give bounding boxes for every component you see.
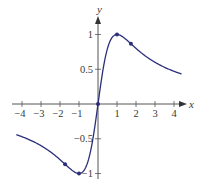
x-tick-label: −3 bbox=[33, 108, 44, 119]
x-tick-label: −1 bbox=[71, 108, 82, 119]
data-point bbox=[63, 162, 67, 166]
y-tick-label: 1 bbox=[88, 29, 93, 40]
y-axis-arrow-icon bbox=[95, 16, 101, 24]
y-tick-label: −1 bbox=[82, 168, 93, 179]
x-tick-label: 2 bbox=[133, 108, 138, 119]
x-tick-label: 4 bbox=[171, 108, 177, 119]
data-point bbox=[96, 102, 100, 106]
x-tick-label: −4 bbox=[14, 108, 26, 119]
x-axis-arrow-icon bbox=[179, 101, 187, 107]
y-axis-label: y bbox=[96, 3, 102, 15]
x-tick-label: 3 bbox=[152, 108, 157, 119]
y-tick-label: −0.5 bbox=[74, 133, 93, 144]
function-graph: −4−3−2−1123410.5−0.5−1 x y bbox=[0, 0, 200, 193]
data-point bbox=[115, 33, 119, 37]
x-tick-label: 1 bbox=[114, 108, 119, 119]
x-tick-label: −2 bbox=[52, 108, 63, 119]
data-point bbox=[77, 172, 81, 176]
x-axis-label: x bbox=[188, 98, 194, 110]
data-point bbox=[129, 42, 133, 46]
y-tick-label: 0.5 bbox=[80, 64, 93, 75]
